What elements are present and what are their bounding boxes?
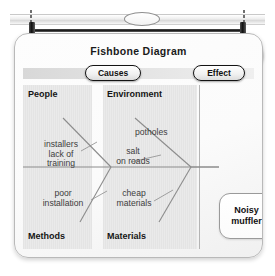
causes-pill-label: Causes	[98, 68, 128, 78]
category-label-methods: Methods	[28, 231, 65, 241]
effect-text: Noisy muffler	[231, 205, 262, 227]
cause-salt-on-roads: salt on roads	[109, 147, 157, 166]
category-label-people: People	[28, 89, 58, 99]
cause-potholes: potholes	[135, 128, 168, 138]
cause-poor-installation: poor installation	[32, 189, 94, 208]
effect-pill-label: Effect	[207, 68, 231, 78]
effect-box[interactable]: Noisy muffler	[219, 193, 263, 239]
hanger-bar	[32, 29, 242, 32]
category-label-environment: Environment	[107, 89, 162, 99]
cause-line-installation: installation	[32, 199, 94, 209]
effect-line-1: Noisy	[231, 205, 262, 216]
fishbone-canvas: People Environment Methods Materials ins…	[23, 85, 254, 249]
causes-pill[interactable]: Causes	[85, 65, 141, 81]
effect-pill[interactable]: Effect	[193, 65, 245, 81]
cause-line-on-roads: on roads	[109, 157, 157, 167]
rail-oval-icon	[124, 12, 160, 26]
fishbone-diagram-screenshot: Fishbone Diagram Causes Effect	[0, 0, 275, 276]
cause-installers-lack-of-training: installers lack of training	[32, 140, 90, 169]
page-title: Fishbone Diagram	[15, 45, 262, 57]
category-label-materials: Materials	[107, 231, 146, 241]
effect-line-2: muffler	[231, 216, 262, 227]
cause-cheap-materials: cheap materials	[109, 189, 159, 208]
cause-line-training: training	[32, 159, 90, 169]
cause-line-materials: materials	[109, 199, 159, 209]
diagram-card: Fishbone Diagram Causes Effect	[14, 33, 263, 258]
